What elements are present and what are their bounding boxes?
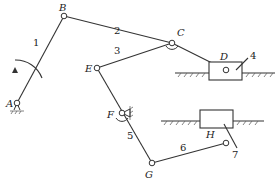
joint-c (169, 40, 175, 46)
label-link-5: 5 (127, 130, 133, 141)
link-3 (97, 43, 172, 68)
label-link-1: 1 (33, 37, 39, 48)
label-g: G (145, 169, 153, 180)
label-b: B (58, 2, 66, 13)
joint-e (94, 65, 100, 71)
linkage-diagram: A B C D E F G H 1 2 3 4 5 6 7 (0, 0, 278, 189)
joint-b (61, 13, 67, 19)
link-5 (97, 68, 152, 163)
joint-h (223, 140, 229, 146)
joint-a (14, 100, 20, 106)
label-link-6: 6 (180, 142, 186, 153)
joint-g (149, 160, 155, 166)
slider-7 (200, 110, 233, 128)
label-e: E (84, 63, 93, 74)
label-link-2: 2 (114, 25, 120, 36)
label-c: C (177, 27, 185, 38)
joint-d (223, 67, 229, 73)
label-h: H (205, 129, 215, 140)
joint-f (119, 110, 125, 116)
link-6 (152, 143, 226, 163)
label-link-7: 7 (232, 149, 238, 160)
label-link-4: 4 (250, 50, 256, 61)
link-1 (17, 16, 64, 103)
label-link-3: 3 (114, 45, 120, 56)
rotation-arrow-icon (15, 60, 42, 78)
label-a: A (5, 98, 13, 109)
label-d: D (219, 51, 228, 62)
label-f: F (106, 109, 115, 120)
